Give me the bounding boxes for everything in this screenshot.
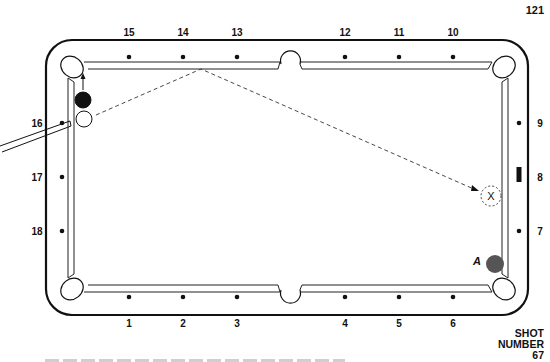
pool-table-diagram: 15 14 13 12 11 10 1 2 3 4 5 6 16 17 18 9… [0,0,550,362]
diamond-label: 13 [231,27,243,38]
diamond-label: 6 [450,318,456,329]
ball-a-label: A [472,255,481,267]
ghost-ball-label: X [487,190,495,202]
diamond-label: 11 [394,27,405,38]
diamond-label: 1 [126,318,132,329]
diamond-label: 14 [177,27,189,38]
ball-a [486,255,504,273]
shot-number: 67 [498,350,544,361]
diamond-label: 17 [31,172,43,183]
diamond-label: 8 [537,172,543,183]
object-ball [75,92,91,108]
diamond-label: 2 [180,318,186,329]
diamond-label: 18 [31,226,43,237]
diamond-label: 16 [31,118,43,129]
diamond-label: 7 [537,226,543,237]
diamond-8-marker [517,167,522,182]
cue-ball [76,111,92,127]
diamond-label: 9 [537,118,543,129]
diamond-label: 12 [339,27,351,38]
diamond-label: 15 [123,27,135,38]
diamond-label: 5 [396,318,402,329]
table-outer-rail [46,40,528,315]
diamond-label: 4 [342,318,348,329]
shot-number-label: SHOT NUMBER 67 [498,328,544,361]
diamond-label: 3 [234,318,240,329]
diamond-label: 10 [447,27,459,38]
